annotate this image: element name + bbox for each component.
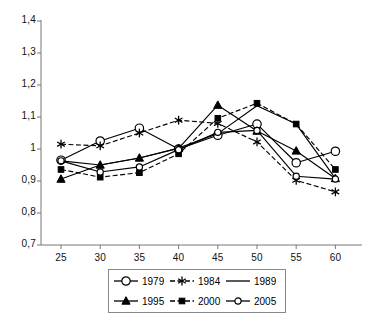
x-axis-tick-label: 40 [164,252,194,263]
data-point-2005-50 [254,127,260,133]
chart-legend: 197919841989199520002005 [108,269,286,313]
x-axis-tick-label: 50 [242,252,272,263]
data-point-1979-60 [331,147,339,155]
legend-marker-1979 [122,277,130,285]
legend-swatch-1979 [113,275,139,287]
data-point-2000-55 [293,121,299,127]
data-point-2005-55 [293,173,299,179]
data-point-1995-45 [214,101,222,109]
x-axis-tick-label: 60 [320,252,350,263]
x-axis-tick-label: 30 [85,252,115,263]
legend-swatch-2000 [169,295,195,307]
legend-item-1995[interactable]: 1995 [113,291,169,311]
legend-swatch-2005 [225,295,251,307]
data-point-2000-35 [137,170,143,176]
y-axis-tick-label: 1,4 [2,14,36,25]
data-point-2005-30 [97,169,103,175]
legend-item-2000[interactable]: 2000 [169,291,225,311]
data-point-2005-25 [58,158,64,164]
y-axis-tick-label: 0,9 [2,174,36,185]
y-axis-tick-label: 1,3 [2,46,36,57]
series-2005 [58,127,339,182]
legend-swatch-1989 [225,275,251,287]
data-point-2005-35 [136,164,142,170]
legend-marker-2000 [179,298,185,304]
legend-item-2005[interactable]: 2005 [225,291,281,311]
y-axis-tick-label: 1 [2,142,36,153]
data-point-2000-60 [333,167,339,173]
y-axis-tick-label: 0,7 [2,238,36,249]
y-axis-tick-label: 1,1 [2,110,36,121]
x-axis-tick-label: 55 [281,252,311,263]
data-point-2005-60 [332,176,338,182]
y-axis-tick-label: 0,8 [2,206,36,217]
legend-item-1979[interactable]: 1979 [113,271,169,291]
data-point-2000-45 [215,115,221,121]
legend-label: 1979 [142,276,164,287]
legend-swatch-1995 [113,295,139,307]
data-point-2000-50 [254,100,260,106]
data-point-1995-55 [292,147,300,155]
legend-item-1984[interactable]: 1984 [169,271,225,291]
legend-entries: 197919841989199520002005 [109,270,285,312]
legend-label: 1984 [198,276,220,287]
legend-swatch-1984 [169,275,195,287]
x-axis-tick-label: 25 [46,252,76,263]
legend-item-1989[interactable]: 1989 [225,271,281,291]
data-point-2005-45 [215,129,221,135]
data-point-2005-40 [176,147,182,153]
data-point-1979-55 [292,159,300,167]
data-point-2000-25 [58,167,64,173]
x-axis-tick-label: 45 [203,252,233,263]
legend-marker-2005 [235,298,241,304]
y-axis-tick-label: 1,2 [2,78,36,89]
legend-label: 2005 [254,296,276,307]
series-1984 [57,116,339,196]
legend-label: 2000 [198,296,220,307]
legend-label: 1995 [142,296,164,307]
legend-label: 1989 [254,276,276,287]
x-axis-tick-label: 35 [124,252,154,263]
